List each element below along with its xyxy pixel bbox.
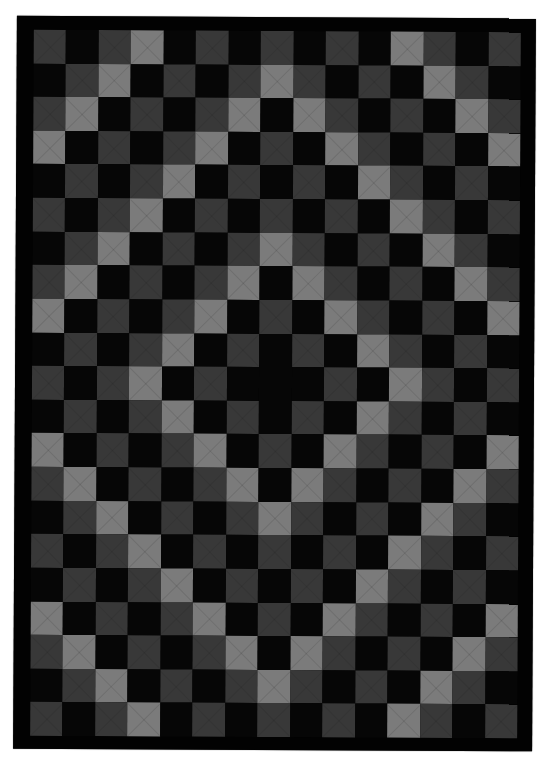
quilt-patch-black — [358, 99, 391, 133]
quilt-patch-dark-gray — [355, 603, 388, 637]
quilt-patch-black — [293, 31, 326, 65]
quilt-patch-light-gray — [356, 401, 389, 435]
quilt-patch-dark-gray — [129, 400, 162, 434]
quilt-patch-black — [66, 30, 99, 64]
quilt-patch-dark-gray — [323, 636, 356, 670]
quilt-patch-dark-gray — [485, 704, 518, 738]
quilt-patch-dark-gray — [421, 536, 454, 570]
quilt-patch-dark-gray — [160, 669, 193, 703]
quilt-patch-dark-gray — [358, 65, 391, 99]
quilt-patch-black — [163, 199, 196, 233]
quilt-patch-dark-gray — [355, 670, 388, 704]
quilt-patch-dark-gray — [32, 265, 65, 299]
quilt-patch-black — [66, 131, 99, 165]
quilt-patch-black — [486, 402, 519, 436]
quilt-patch-light-gray — [455, 99, 488, 133]
quilt-patch-dark-gray — [162, 299, 195, 333]
quilt-patch-dark-gray — [420, 704, 453, 738]
quilt-patch-dark-gray — [452, 671, 485, 705]
quilt-patch-light-gray — [32, 299, 65, 333]
quilt — [13, 16, 536, 752]
quilt-patch-black — [293, 199, 326, 233]
quilt-patch-light-gray — [485, 604, 518, 638]
quilt-patch-black — [164, 30, 197, 64]
quilt-patch-dark-gray — [357, 300, 390, 334]
quilt-patch-light-gray — [161, 568, 194, 602]
quilt-patch-black — [293, 132, 326, 166]
quilt-patch-light-gray — [260, 233, 293, 267]
quilt-patch-light-gray — [64, 467, 97, 501]
quilt-patch-black — [227, 367, 260, 401]
quilt-patch-black — [63, 601, 96, 635]
quilt-patch-black — [259, 367, 292, 401]
quilt-patch-dark-gray — [66, 64, 99, 98]
quilt-patch-dark-gray — [64, 400, 97, 434]
quilt-patch-black — [488, 66, 521, 100]
quilt-patch-light-gray — [356, 569, 389, 603]
quilt-patch-dark-gray — [292, 334, 325, 368]
quilt-patch-dark-gray — [291, 502, 324, 536]
quilt-patch-light-gray — [66, 97, 99, 131]
quilt-patch-black — [356, 536, 389, 570]
quilt-patch-black — [487, 167, 520, 201]
quilt-patch-black — [325, 166, 358, 200]
quilt-patch-dark-gray — [422, 301, 455, 335]
quilt-patch-dark-gray — [389, 401, 422, 435]
quilt-patch-dark-gray — [65, 232, 98, 266]
quilt-patch-black — [32, 400, 65, 434]
quilt-patch-dark-gray — [455, 234, 488, 268]
quilt-patch-dark-gray — [293, 65, 326, 99]
quilt-patch-dark-gray — [260, 300, 293, 334]
quilt-patch-black — [292, 367, 325, 401]
quilt-patch-dark-gray — [226, 501, 259, 535]
quilt-patch-light-gray — [98, 64, 131, 98]
quilt-patch-light-gray — [227, 266, 260, 300]
quilt-patch-light-gray — [65, 265, 98, 299]
quilt-patch-dark-gray — [455, 166, 488, 200]
quilt-patch-black — [194, 333, 227, 367]
quilt-patch-light-gray — [358, 166, 391, 200]
quilt-patch-dark-gray — [257, 703, 290, 737]
quilt-patch-dark-gray — [98, 198, 131, 232]
quilt-patch-dark-gray — [358, 132, 391, 166]
quilt-patch-dark-gray — [130, 266, 163, 300]
quilt-patch-dark-gray — [324, 367, 357, 401]
quilt-patch-black — [323, 670, 356, 704]
quilt-patch-light-gray — [420, 671, 453, 705]
quilt-patch-black — [33, 164, 66, 198]
quilt-patch-dark-gray — [388, 569, 421, 603]
quilt-patch-black — [455, 133, 488, 167]
quilt-patch-black — [485, 671, 518, 705]
quilt-patch-light-gray — [131, 30, 164, 64]
quilt-patch-light-gray — [324, 435, 357, 469]
quilt-patch-black — [422, 267, 455, 301]
quilt-patch-black — [325, 233, 358, 267]
quilt-patch-light-gray — [488, 133, 521, 167]
quilt-patch-black — [390, 233, 423, 267]
quilt-patch-black — [64, 366, 97, 400]
quilt-patch-light-gray — [325, 132, 358, 166]
quilt-patch-black — [226, 434, 259, 468]
quilt-patch-dark-gray — [98, 131, 131, 165]
quilt-patch-black — [290, 703, 323, 737]
quilt-patch-dark-gray — [453, 570, 486, 604]
quilt-patch-light-gray — [128, 535, 161, 569]
quilt-patch-dark-gray — [96, 433, 129, 467]
quilt-patch-black — [324, 334, 357, 368]
quilt-patch-dark-gray — [163, 131, 196, 165]
quilt-patch-dark-gray — [193, 636, 226, 670]
quilt-patch-dark-gray — [325, 267, 358, 301]
quilt-patch-black — [128, 669, 161, 703]
quilt-patch-dark-gray — [390, 166, 423, 200]
quilt-patch-black — [453, 603, 486, 637]
quilt-patch-dark-gray — [130, 165, 163, 199]
quilt-patch-black — [228, 199, 261, 233]
quilt-patch-dark-gray — [325, 199, 358, 233]
quilt-patch-dark-gray — [488, 99, 521, 133]
quilt-patch-black — [195, 232, 228, 266]
quilt-patch-dark-gray — [99, 30, 132, 64]
quilt-patch-black — [194, 400, 227, 434]
quilt-patch-black — [63, 534, 96, 568]
quilt-patch-dark-gray — [453, 503, 486, 537]
quilt-patch-dark-gray — [227, 401, 260, 435]
